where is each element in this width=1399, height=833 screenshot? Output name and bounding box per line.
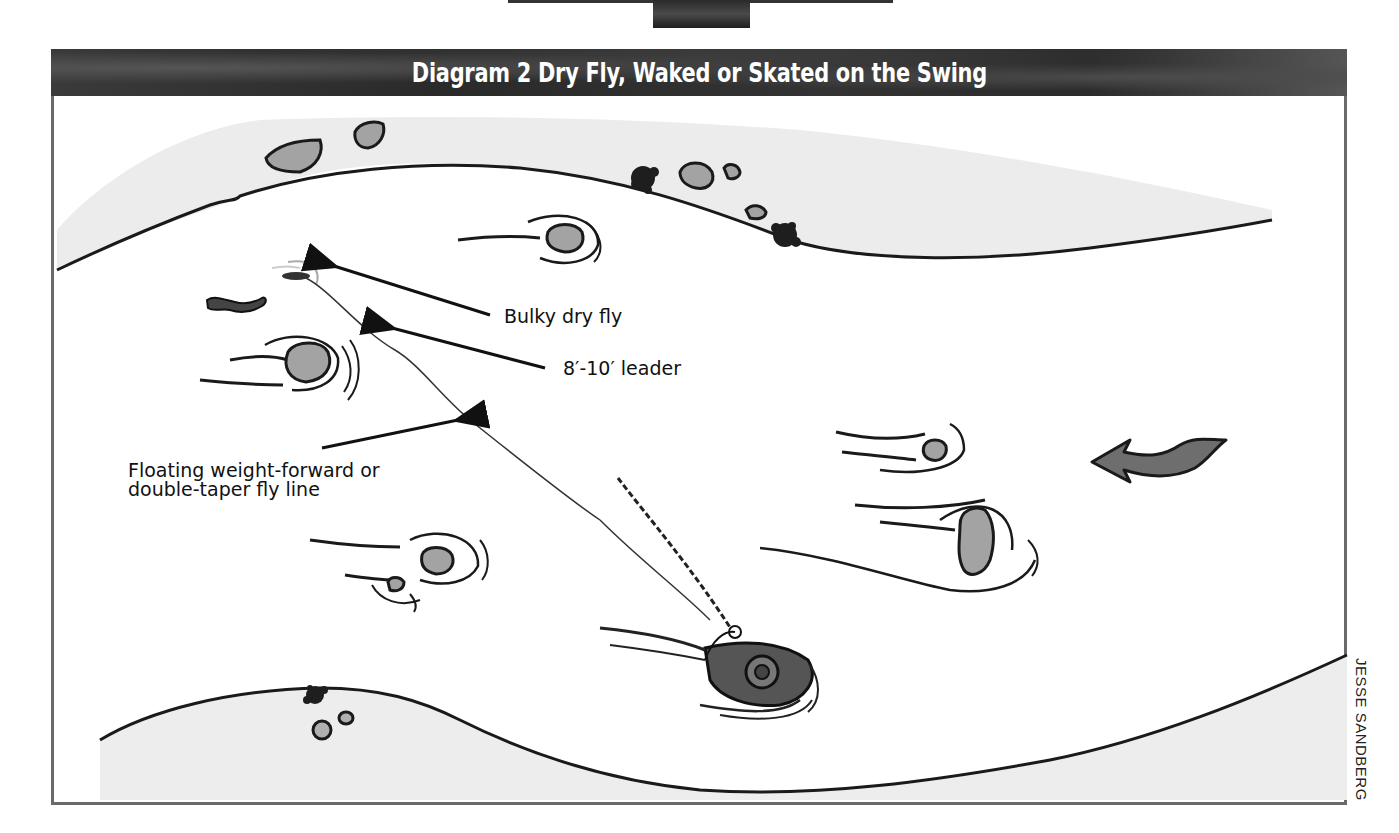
label-leader: 8′-10′ leader (563, 358, 681, 378)
fish-icon (207, 298, 266, 312)
label-bulky-dry-fly: Bulky dry fly (504, 306, 622, 326)
current-direction-arrow-icon (1092, 439, 1226, 482)
fly-rod (618, 478, 735, 635)
fly-line (600, 520, 710, 620)
far-bank (57, 117, 1272, 270)
label-fly-line-2: double-taper fly line (128, 479, 320, 499)
midstream-rocks (200, 216, 1038, 612)
illustrator-credit: JESSE SANDBERG (1353, 658, 1370, 801)
callout-arrows (322, 266, 545, 448)
label-fly-line-1: Floating weight-forward or (128, 460, 380, 480)
river-illustration (0, 0, 1399, 833)
angler (600, 626, 818, 719)
